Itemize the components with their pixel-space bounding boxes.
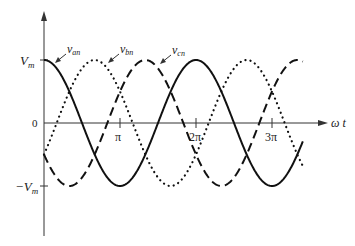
two-pi-label: 2π (189, 130, 201, 144)
vcn-pointer-arrow-icon (160, 58, 166, 64)
three-phase-voltage-chart: Vm 0 −Vm π 2π 3π ω t van vbn vcn (0, 0, 355, 246)
x-axis-arrow-icon (318, 120, 328, 126)
y-axis-arrow-icon (41, 11, 47, 21)
van-label: van (67, 42, 80, 57)
vm-label: Vm (20, 53, 35, 70)
van-pointer-arrow-icon (55, 57, 61, 63)
x-axis-label: ω t (331, 116, 346, 130)
neg-vm-label: −Vm (15, 179, 39, 196)
three-pi-label: 3π (265, 130, 277, 144)
vbn-pointer-arrow-icon (108, 57, 114, 63)
vbn-label: vbn (120, 42, 133, 57)
pi-label: π (115, 130, 121, 144)
zero-label: 0 (32, 117, 38, 129)
vcn-label: vcn (172, 43, 185, 58)
